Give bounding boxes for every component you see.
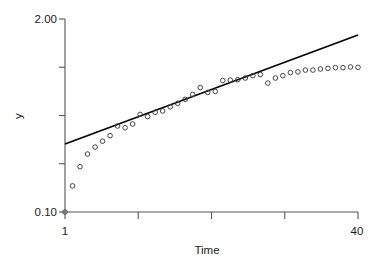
x-axis-title: Time bbox=[194, 244, 219, 256]
chart-container: 2.00 0.10 1 40 y Time bbox=[0, 0, 374, 264]
x-tick-label-left: 1 bbox=[62, 225, 68, 237]
x-tick-label-right: 40 bbox=[351, 225, 364, 237]
plot-background bbox=[0, 0, 374, 264]
y-tick-label-top: 2.00 bbox=[35, 13, 57, 25]
scatter-plot-svg: 2.00 0.10 1 40 y Time bbox=[0, 0, 374, 264]
y-axis-title: y bbox=[12, 113, 24, 119]
y-tick-label-bottom: 0.10 bbox=[35, 206, 57, 218]
